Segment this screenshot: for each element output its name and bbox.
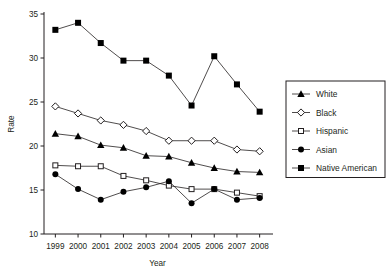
data-point-asian bbox=[143, 184, 149, 190]
x-axis-tick-label: 2001 bbox=[92, 242, 111, 251]
data-point-asian bbox=[98, 197, 104, 203]
data-point-native-american bbox=[120, 58, 126, 64]
data-point-native-american bbox=[98, 40, 104, 46]
chart-figure: 1015202530351999200020012002200320042005… bbox=[0, 0, 389, 273]
data-point-asian bbox=[234, 197, 240, 203]
x-axis-tick-label: 2004 bbox=[160, 242, 179, 251]
data-point-hispanic bbox=[121, 173, 126, 178]
data-point-hispanic bbox=[98, 164, 103, 169]
data-point-black bbox=[233, 146, 240, 153]
data-point-asian bbox=[75, 186, 81, 192]
legend-label-native-american: Native American bbox=[316, 163, 377, 173]
data-point-native-american bbox=[52, 27, 58, 33]
legend-label-asian: Asian bbox=[316, 145, 337, 155]
x-axis-tick-label: 1999 bbox=[46, 242, 65, 251]
line-chart: 1015202530351999200020012002200320042005… bbox=[0, 0, 389, 273]
x-axis-title: Year bbox=[149, 259, 166, 268]
legend-marker-asian bbox=[298, 147, 304, 153]
data-point-black bbox=[256, 148, 263, 155]
data-point-asian bbox=[166, 178, 172, 184]
data-point-hispanic bbox=[53, 163, 58, 168]
y-axis-tick-label: 20 bbox=[29, 142, 39, 151]
y-axis-tick-label: 10 bbox=[29, 230, 39, 239]
data-point-native-american bbox=[166, 73, 172, 79]
data-point-black bbox=[52, 103, 59, 110]
legend-label-black: Black bbox=[316, 108, 337, 118]
y-axis-tick-label: 30 bbox=[29, 54, 39, 63]
data-point-asian bbox=[211, 186, 217, 192]
data-point-hispanic bbox=[144, 178, 149, 183]
data-point-black bbox=[143, 127, 150, 134]
data-point-hispanic bbox=[234, 190, 239, 195]
x-axis-tick-label: 2002 bbox=[114, 242, 133, 251]
data-point-white bbox=[142, 152, 149, 159]
series-line-asian bbox=[55, 174, 259, 203]
series-line-native-american bbox=[55, 23, 259, 112]
data-point-black bbox=[211, 137, 218, 144]
x-axis-tick-label: 2000 bbox=[69, 242, 88, 251]
data-point-black bbox=[97, 117, 104, 124]
y-axis-tick-label: 25 bbox=[29, 98, 39, 107]
data-point-native-american bbox=[211, 53, 217, 59]
x-axis-tick-label: 2007 bbox=[228, 242, 247, 251]
data-point-native-american bbox=[75, 20, 81, 26]
series-line-black bbox=[55, 106, 259, 151]
data-point-asian bbox=[120, 189, 126, 195]
data-point-native-american bbox=[257, 109, 263, 115]
legend-label-hispanic: Hispanic bbox=[316, 126, 348, 136]
data-point-black bbox=[74, 110, 81, 117]
data-point-hispanic bbox=[189, 187, 194, 192]
legend-label-white: White bbox=[316, 89, 338, 99]
legend-marker-hispanic bbox=[299, 129, 304, 134]
x-axis-tick-label: 2008 bbox=[251, 242, 270, 251]
x-axis-tick-label: 2006 bbox=[205, 242, 224, 251]
data-point-asian bbox=[257, 195, 263, 201]
y-axis-title: Rate bbox=[7, 115, 16, 133]
data-point-black bbox=[120, 121, 127, 128]
data-point-white bbox=[97, 141, 104, 148]
data-point-black bbox=[188, 137, 195, 144]
data-point-black bbox=[165, 137, 172, 144]
data-point-asian bbox=[52, 171, 58, 177]
y-axis-tick-label: 15 bbox=[29, 186, 39, 195]
x-axis-tick-label: 2005 bbox=[182, 242, 201, 251]
x-axis-tick-label: 2003 bbox=[137, 242, 156, 251]
data-point-native-american bbox=[143, 58, 149, 64]
data-point-white bbox=[52, 130, 59, 137]
y-axis-tick-label: 35 bbox=[29, 10, 39, 19]
data-point-hispanic bbox=[76, 164, 81, 169]
legend-marker-native-american bbox=[298, 165, 304, 171]
data-point-native-american bbox=[189, 103, 195, 109]
data-point-asian bbox=[189, 200, 195, 206]
data-point-native-american bbox=[234, 81, 240, 87]
